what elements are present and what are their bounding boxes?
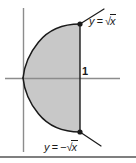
- upper-label-variable: y: [89, 15, 95, 27]
- upper-endpoint-dot: [77, 21, 82, 26]
- upper-label-radicand: x: [110, 14, 117, 27]
- lower-label-sqrt: √x: [66, 142, 78, 153]
- math-figure: y=√x y=−√x 1: [0, 0, 136, 163]
- lower-curve-label: y=−√x: [44, 142, 78, 153]
- upper-label-equals: =: [97, 15, 103, 27]
- lower-label-variable: y: [44, 141, 50, 153]
- x-value-label: 1: [82, 66, 88, 77]
- upper-label-sqrt: √x: [105, 16, 117, 27]
- lower-label-leader-line: [80, 132, 101, 146]
- lower-endpoint-dot: [77, 129, 82, 134]
- upper-curve-label: y=√x: [89, 16, 116, 27]
- lower-label-radicand: x: [71, 140, 78, 153]
- lower-label-equals: =: [52, 141, 58, 153]
